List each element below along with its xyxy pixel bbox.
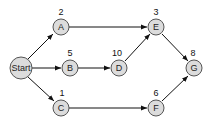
- node-label: C: [58, 103, 65, 113]
- node-label: G: [190, 63, 197, 73]
- node-label: F: [153, 103, 159, 113]
- node-weight: 10: [112, 48, 122, 58]
- node-e: E: [148, 19, 164, 35]
- edge-f-g: [162, 76, 188, 101]
- node-d: D: [111, 60, 127, 76]
- node-start: Start: [10, 57, 32, 79]
- node-label: D: [116, 63, 123, 73]
- node-label: A: [58, 22, 64, 32]
- edge-start-a: [28, 34, 53, 59]
- node-c: C: [53, 100, 69, 116]
- node-weight: 3: [153, 7, 158, 17]
- network-diagram: Start A 2 B 5 C 1 D 10 E 3 F 6 G 8: [0, 0, 203, 120]
- node-b: B: [62, 60, 78, 76]
- node-a: A: [53, 19, 69, 35]
- node-label: E: [153, 22, 159, 32]
- node-weight: 6: [153, 88, 158, 98]
- node-label: Start: [11, 63, 31, 73]
- edge-start-c: [28, 77, 54, 101]
- edge-d-e: [125, 34, 150, 61]
- node-weight: 5: [67, 48, 72, 58]
- edge-e-g: [162, 34, 188, 61]
- node-weight: 1: [59, 88, 64, 98]
- node-label: B: [67, 63, 73, 73]
- node-weight: 8: [190, 48, 195, 58]
- node-weight: 2: [58, 7, 63, 17]
- node-g: G: [186, 60, 202, 76]
- node-f: F: [148, 100, 164, 116]
